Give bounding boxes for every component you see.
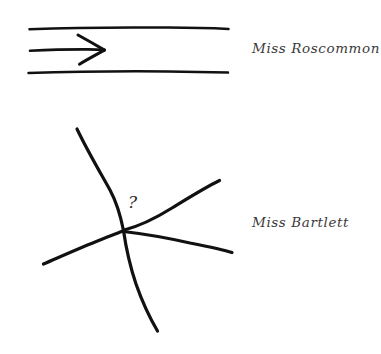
drawing-canvas: ? Miss Roscommon Miss Bartlett [0, 0, 381, 354]
figure-converging-lines [44, 129, 233, 331]
converging-line-left [44, 231, 124, 264]
arrowhead-upper-barb [78, 35, 105, 50]
label-miss-roscommon: Miss Roscommon [252, 42, 380, 56]
question-mark-annotation: ? [128, 194, 137, 211]
rail-bottom-line [29, 71, 229, 73]
converging-line-lower-right-descender [124, 231, 158, 332]
arrowhead-lower-barb [80, 50, 105, 64]
converging-line-upper-right [124, 181, 220, 231]
converging-line-upper-left [77, 129, 124, 231]
figure-straight-arrow [29, 27, 229, 73]
label-miss-bartlett: Miss Bartlett [252, 216, 349, 230]
converging-line-right [124, 232, 233, 253]
arrow-shaft [30, 49, 105, 50]
rail-top-line [30, 27, 229, 29]
